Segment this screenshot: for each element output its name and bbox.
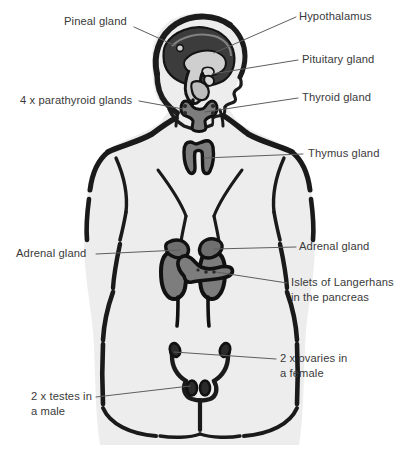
ureter-right (208, 297, 209, 326)
parathyroid-nodule (183, 111, 187, 115)
endocrine-system-diagram: Pineal gland Hypothalamus Pituitary glan… (0, 0, 401, 450)
label-hypothalamus: Hypothalamus (299, 9, 372, 24)
islet-dot (196, 268, 199, 271)
pineal-structure (177, 45, 184, 52)
label-thyroid-gland: Thyroid gland (302, 90, 371, 105)
islet-dot (204, 270, 208, 274)
label-islets-of-langerhans: Islets of Langerhans in the pancreas (291, 275, 394, 304)
label-parathyroid-glands: 4 x parathyroid glands (20, 93, 132, 108)
parathyroid-nodule (211, 104, 215, 108)
label-ovaries: 2 x ovaries in a female (280, 351, 347, 380)
pituitary-structure (204, 76, 214, 86)
label-pineal-gland: Pineal gland (64, 14, 127, 29)
islet-dot (212, 270, 216, 274)
label-adrenal-gland-right: Adrenal gland (299, 239, 369, 254)
label-testes: 2 x testes in a male (31, 389, 92, 418)
parathyroid-nodule (211, 111, 215, 115)
diagram-canvas (0, 0, 401, 450)
label-thymus-gland: Thymus gland (308, 146, 379, 161)
testis-left (187, 381, 197, 396)
label-pituitary-gland: Pituitary gland (302, 52, 374, 67)
label-adrenal-gland-left: Adrenal gland (16, 246, 86, 261)
ureter-left (177, 297, 178, 326)
testis-right (200, 381, 210, 396)
parathyroid-nodule (183, 104, 187, 108)
